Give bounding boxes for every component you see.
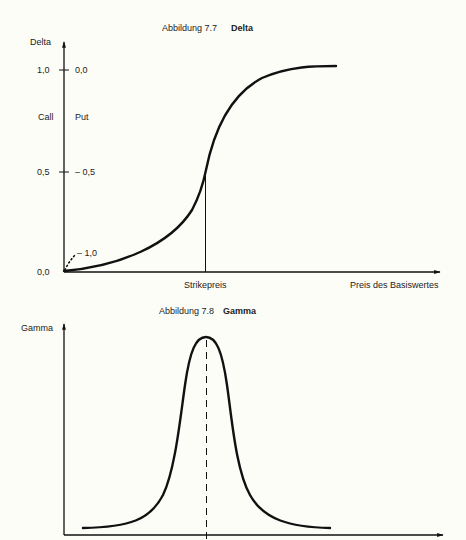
- gamma-title: Gamma: [223, 306, 257, 316]
- gamma-y-label: Gamma: [21, 323, 53, 333]
- delta-title: Delta: [231, 23, 254, 33]
- put-delta-dotted: [65, 254, 76, 270]
- call-label: Call: [38, 112, 54, 122]
- figure: Abbildung 7.7 Delta Delta 1,0 0,0 Call P…: [0, 0, 466, 540]
- strike-label: Strikepreis: [184, 280, 227, 290]
- delta-x-label: Preis des Basiswertes: [350, 280, 439, 290]
- delta-curve: [64, 66, 336, 271]
- y-tick-put-0-0: 0,0: [75, 65, 88, 75]
- delta-y-label: Delta: [30, 37, 51, 47]
- gamma-title-prefix: Abbildung 7.8: [159, 306, 214, 316]
- y-tick-put-0-5: – 0,5: [75, 167, 95, 177]
- y-tick-put-1-0: – 1,0: [77, 248, 97, 258]
- y-tick-call-0-0: 0,0: [37, 267, 50, 277]
- put-label: Put: [75, 112, 89, 122]
- y-tick-call-1-0: 1,0: [37, 65, 50, 75]
- delta-title-prefix: Abbildung 7.7: [162, 23, 217, 33]
- y-tick-call-0-5: 0,5: [37, 167, 50, 177]
